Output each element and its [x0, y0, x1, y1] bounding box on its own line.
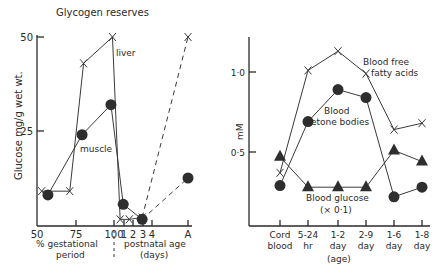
- blood-metabolites-chart: mM 0·51·0 Cordblood5-24hr1-2day2-9day1-6…: [231, 37, 431, 264]
- ffa-point: [335, 47, 342, 55]
- muscle-point: [77, 129, 88, 140]
- glucose-point: [302, 180, 314, 191]
- muscle-label: muscle: [80, 144, 113, 154]
- ketone-point: [417, 182, 428, 193]
- right-x-tick-label: blood: [268, 241, 293, 251]
- right-x-tick-label: 1-2: [331, 230, 346, 240]
- left-chart-title: Glycogen reserves: [56, 7, 149, 18]
- muscle-dashed-line: [142, 178, 188, 219]
- right-x-tick-label: Cord: [269, 230, 290, 240]
- right-x-tick-label: day: [358, 241, 375, 251]
- right-y-axis-label: mM: [235, 123, 245, 140]
- ketone-label-line1: Blood: [324, 106, 349, 116]
- ketone-point: [361, 92, 372, 103]
- glucose-point: [274, 150, 286, 161]
- glucose-label-line1: Blood glucose: [306, 193, 369, 203]
- muscle-point: [137, 214, 148, 225]
- ketone-point: [275, 180, 286, 191]
- glucose-line: [280, 150, 422, 187]
- ffa-point: [363, 70, 370, 78]
- right-x-tick-label: day: [414, 241, 431, 251]
- right-x-tick-label: 5-24: [298, 230, 319, 240]
- ketone-point: [333, 84, 344, 95]
- liver-line: [42, 37, 142, 219]
- glucose-label-line2: (× 0·1): [320, 205, 352, 215]
- muscle-point: [42, 189, 53, 200]
- right-x-tick-label: 1-8: [415, 230, 430, 240]
- glucose-point: [332, 180, 344, 191]
- muscle-point: [118, 199, 129, 210]
- right-y-tick-label: 1·0: [231, 68, 246, 78]
- left-y-tick-label: 25: [20, 126, 33, 137]
- right-x-axis-label: (age): [327, 254, 351, 264]
- ffa-point: [391, 126, 398, 134]
- right-segment-x-label-line1: postnatal age: [124, 239, 186, 249]
- right-y-tick-label: 0·5: [231, 148, 245, 158]
- glycogen-chart: Glycogen reserves Glucose mg/g wet wt. 2…: [13, 7, 194, 260]
- right-x-tick-label: day: [386, 241, 403, 251]
- liver-dashed-line: [142, 37, 188, 217]
- ffa-point: [419, 119, 426, 127]
- ffa-point: [305, 66, 312, 74]
- liver-point: [185, 33, 192, 41]
- ffa-point: [277, 169, 284, 177]
- ffa-label-line2: fatty acids: [371, 68, 419, 78]
- right-x-tick-label: 1-6: [387, 230, 402, 240]
- left-x-label-line2: period: [56, 250, 85, 260]
- glucose-point: [388, 143, 400, 154]
- liver-label: liver: [116, 48, 136, 58]
- left-y-tick-label: 50: [20, 32, 33, 43]
- ffa-label-line1: Blood free: [363, 57, 409, 67]
- right-x-tick-label: hr: [303, 241, 313, 251]
- right-x-tick-label: 2-9: [359, 230, 374, 240]
- ketone-line: [280, 90, 422, 197]
- muscle-point: [183, 173, 194, 184]
- ketone-point: [389, 191, 400, 202]
- ketone-label-line2: ketone bodies: [306, 117, 370, 127]
- right-segment-x-label-line2: (days): [140, 250, 168, 260]
- figure: Glycogen reserves Glucose mg/g wet wt. 2…: [0, 0, 439, 275]
- left-x-label-line1: % gestational: [36, 239, 98, 249]
- right-x-tick-label: day: [330, 241, 347, 251]
- muscle-point: [105, 99, 116, 110]
